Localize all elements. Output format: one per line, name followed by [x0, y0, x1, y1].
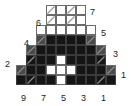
bottom-axis-label-3-3: 3	[81, 94, 86, 103]
lattice-diagram: 642753197531	[0, 0, 131, 106]
right-axis-label-1-3: 1	[121, 71, 126, 80]
right-axis-label-5-1: 5	[101, 29, 106, 38]
right-axis-label-7-0: 7	[90, 8, 95, 17]
left-axis-label-6-0: 6	[36, 19, 41, 28]
bottom-axis-label-9-0: 9	[21, 94, 26, 103]
left-axis-label-4-1: 4	[24, 39, 29, 48]
axis-labels-layer: 642753197531	[0, 0, 131, 106]
left-axis-label-2-2: 2	[5, 60, 10, 69]
bottom-axis-label-1-4: 1	[101, 94, 106, 103]
bottom-axis-label-5-2: 5	[61, 94, 66, 103]
bottom-axis-label-7-1: 7	[41, 94, 46, 103]
right-axis-label-3-2: 3	[113, 50, 118, 59]
